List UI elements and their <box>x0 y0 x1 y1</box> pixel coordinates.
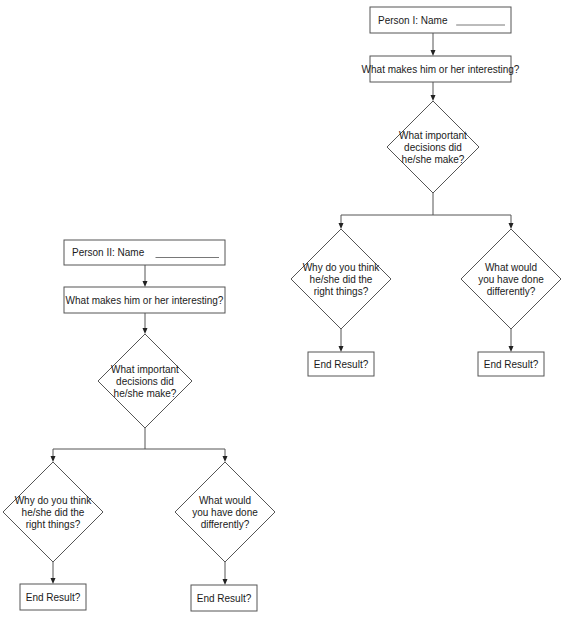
node-interesting: What makes him or her interesting? <box>362 56 520 82</box>
node-label: What important <box>399 130 467 141</box>
arrowhead-icon <box>509 346 514 352</box>
node-label: he/she did the <box>310 274 373 285</box>
node-label: differently? <box>487 286 536 297</box>
node-end-right: End Result? <box>478 352 544 376</box>
arrowhead-icon <box>431 50 436 56</box>
arrowhead-icon <box>339 346 344 352</box>
node-label: right things? <box>314 286 369 297</box>
node-label: End Result? <box>314 359 369 370</box>
node-label: he/she make? <box>114 388 177 399</box>
node-label: What would <box>199 495 251 506</box>
arrowhead-icon <box>431 95 436 101</box>
node-label: End Result? <box>197 593 252 604</box>
node-label: End Result? <box>484 359 539 370</box>
node-decisions: What importantdecisions didhe/she make? <box>98 334 192 428</box>
node-label: he/she make? <box>402 154 465 165</box>
node-end-left: End Result? <box>308 352 374 376</box>
arrowhead-icon <box>51 456 56 462</box>
node-label: Person II: Name <box>72 247 145 258</box>
node-label: you have done <box>478 274 544 285</box>
node-label: decisions did <box>404 142 462 153</box>
node-label: differently? <box>201 519 250 530</box>
node-label: Why do you think <box>303 262 381 273</box>
node-end-left: End Result? <box>20 584 86 610</box>
node-name: Person I: Name <box>370 7 511 33</box>
arrowhead-icon <box>339 223 344 229</box>
flowchart-person-1: Person I: NameWhat makes him or her inte… <box>291 7 561 376</box>
node-label: What important <box>111 364 179 375</box>
node-why-right: Why do you thinkhe/she did theright thin… <box>3 462 103 562</box>
node-name: Person II: Name <box>64 240 225 265</box>
node-decisions: What importantdecisions didhe/she make? <box>387 101 479 193</box>
flowchart-diagram: Person I: NameWhat makes him or her inte… <box>0 0 571 619</box>
node-differently: What wouldyou have donedifferently? <box>461 229 561 329</box>
node-label: right things? <box>26 519 81 530</box>
node-end-right: End Result? <box>191 585 257 611</box>
node-label: you have done <box>192 507 258 518</box>
node-label: decisions did <box>116 376 174 387</box>
node-label: Person I: Name <box>378 15 448 26</box>
node-interesting: What makes him or her interesting? <box>64 287 225 313</box>
flowchart-person-2: Person II: NameWhat makes him or her int… <box>3 240 275 611</box>
arrowhead-icon <box>143 328 148 334</box>
arrowhead-icon <box>223 456 228 462</box>
node-label: Why do you think <box>15 495 93 506</box>
node-label: What makes him or her interesting? <box>362 64 520 75</box>
diagram-canvas: Person I: NameWhat makes him or her inte… <box>0 0 571 619</box>
node-label: What would <box>485 262 537 273</box>
arrowhead-icon <box>223 579 228 585</box>
node-label: End Result? <box>26 592 81 603</box>
arrowhead-icon <box>51 578 56 584</box>
node-label: What makes him or her interesting? <box>66 295 224 306</box>
node-label: he/she did the <box>22 507 85 518</box>
arrowhead-icon <box>509 223 514 229</box>
node-differently: What wouldyou have donedifferently? <box>175 462 275 562</box>
node-why-right: Why do you thinkhe/she did theright thin… <box>291 229 391 329</box>
arrowhead-icon <box>143 281 148 287</box>
